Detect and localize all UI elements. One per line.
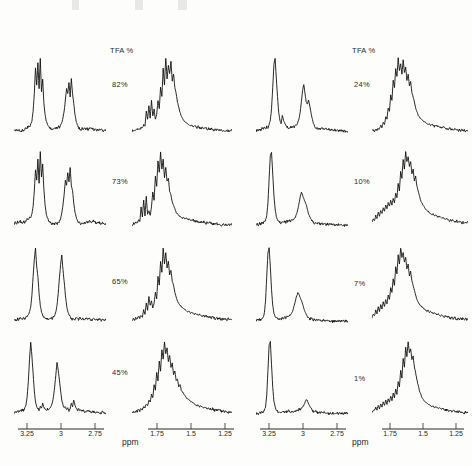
spectrum-trace bbox=[372, 152, 468, 224]
spectrum-panel-right-upfield-row-1 bbox=[372, 146, 468, 232]
spectrum-panel-right-upfield-row-2 bbox=[372, 242, 468, 328]
spectrum-trace bbox=[256, 341, 348, 414]
axis-left-downfield-tick-1: 3 bbox=[59, 430, 63, 437]
spectrum-panel-left-upfield-row-0 bbox=[132, 52, 232, 138]
spectrum-panel-left-upfield-row-3 bbox=[132, 336, 232, 420]
spectrum-trace bbox=[132, 248, 232, 321]
spectrum-panel-right-downfield-row-3 bbox=[256, 336, 348, 420]
spectrum-panel-left-upfield-row-1 bbox=[132, 146, 232, 232]
right-conc-label-row-0: 24% bbox=[354, 80, 370, 89]
spectrum-panel-left-downfield-row-2 bbox=[14, 242, 106, 328]
axis-right-downfield-tick-0: 3.25 bbox=[262, 430, 276, 437]
left-conc-label-row-0: 82% bbox=[112, 80, 128, 89]
spectrum-trace bbox=[14, 248, 106, 321]
spectrum-trace bbox=[372, 248, 468, 320]
spectrum-panel-right-downfield-row-2 bbox=[256, 242, 348, 328]
axis-right-upfield-tick-1: 1.5 bbox=[418, 430, 428, 437]
spectrum-panel-left-upfield-row-2 bbox=[132, 242, 232, 328]
axis-left-downfield-tick-2: 2.75 bbox=[88, 430, 102, 437]
spectrum-trace bbox=[14, 58, 106, 131]
axis-left-upfield-tick-2: 1.25 bbox=[218, 430, 232, 437]
crop-remnant-mark-1 bbox=[72, 0, 79, 10]
axis-left-ppm-label: ppm bbox=[122, 437, 139, 447]
spectrum-panel-right-upfield-row-3 bbox=[372, 336, 468, 420]
spectrum-trace bbox=[256, 58, 348, 132]
right-conc-label-row-3: 1% bbox=[354, 374, 365, 383]
left-conc-label-row-3: 45% bbox=[112, 368, 128, 377]
spectrum-panel-left-downfield-row-0 bbox=[14, 52, 106, 138]
spectrum-panel-right-upfield-row-0 bbox=[372, 52, 468, 138]
left-conc-label-row-2: 65% bbox=[112, 277, 128, 286]
left-conc-label-row-1: 73% bbox=[112, 177, 128, 186]
spectrum-panel-left-downfield-row-1 bbox=[14, 146, 106, 232]
right-conc-label-row-2: 7% bbox=[354, 279, 365, 288]
spectrum-panel-right-downfield-row-0 bbox=[256, 52, 348, 138]
spectrum-trace bbox=[14, 342, 106, 414]
crop-remnant-mark-3 bbox=[178, 0, 187, 10]
spectrum-trace bbox=[132, 342, 232, 413]
axis-right-downfield-tick-2: 2.75 bbox=[330, 430, 344, 437]
nmr-figure: TFA % 82% 73% 65% 45% 3.25 3 2.75 ppm 1.… bbox=[0, 0, 472, 466]
axis-left-downfield-tick-0: 3.25 bbox=[20, 430, 34, 437]
spectrum-trace bbox=[256, 248, 348, 323]
left-block-header: TFA % bbox=[110, 46, 134, 55]
axis-right-ppm-label: ppm bbox=[352, 437, 369, 447]
spectrum-panel-left-downfield-row-3 bbox=[14, 336, 106, 420]
crop-remnant-mark-2 bbox=[135, 0, 143, 10]
axis-right-upfield-tick-0: 1.75 bbox=[383, 430, 397, 437]
spectrum-trace bbox=[132, 152, 232, 226]
spectrum-trace bbox=[132, 58, 232, 132]
axis-left-upfield-tick-1: 1.5 bbox=[186, 430, 196, 437]
spectrum-trace bbox=[372, 58, 468, 132]
axis-right-upfield-tick-2: 1.25 bbox=[449, 430, 463, 437]
spectrum-panel-right-downfield-row-1 bbox=[256, 146, 348, 232]
spectrum-trace bbox=[372, 342, 468, 414]
spectrum-trace bbox=[256, 152, 348, 226]
axis-right-downfield-tick-1: 3 bbox=[301, 430, 305, 437]
right-conc-label-row-1: 10% bbox=[354, 177, 370, 186]
spectrum-trace bbox=[14, 152, 106, 225]
axis-left-upfield-tick-0: 1.75 bbox=[150, 430, 164, 437]
